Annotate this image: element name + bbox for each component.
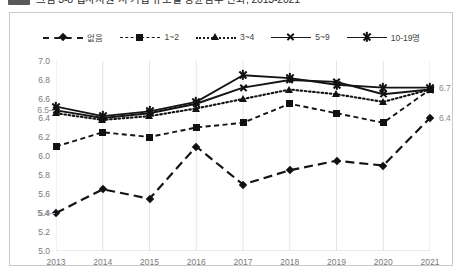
data-point-marker <box>146 134 153 141</box>
legend-label-3-4: 3~4 <box>240 32 254 42</box>
chart-frame: 없음 1~2 3~4 <box>9 12 453 266</box>
data-point-marker <box>53 143 60 150</box>
legend-item-5-9[interactable]: 5~9 <box>271 32 329 43</box>
x-axis-tick: 2020 <box>374 257 393 267</box>
legend-swatch-triangle-icon <box>196 32 236 43</box>
x-axis-tick: 2018 <box>280 257 299 267</box>
figure-caption-text: 그림 3-8 입사지원 시 기업 규모별 평균점수 변화, 2013-2021 <box>36 0 300 6</box>
y-axis-tick: 5.0 <box>38 246 50 256</box>
data-point-marker <box>285 86 293 93</box>
legend-label-10-19: 10-19명 <box>391 31 421 43</box>
y-axis-tick: 5.6 <box>38 189 50 199</box>
data-point-marker <box>378 83 388 93</box>
legend-item-3-4[interactable]: 3~4 <box>196 32 254 43</box>
data-point-marker <box>98 111 108 121</box>
x-axis-tick: 2017 <box>234 257 253 267</box>
x-axis-tick: 2019 <box>327 257 346 267</box>
x-axis-tick: 2013 <box>47 257 66 267</box>
legend-label-none: 없음 <box>87 31 103 43</box>
data-point-marker <box>145 106 155 116</box>
label-leader-line <box>49 213 55 214</box>
y-axis-tick: 5.2 <box>38 227 50 237</box>
x-axis-tick: 2016 <box>187 257 206 267</box>
legend-swatch-square-icon <box>120 32 160 43</box>
label-leader-line <box>49 110 55 111</box>
data-point-marker <box>99 129 106 136</box>
data-point-marker <box>191 97 201 107</box>
data-point-label: 6.5 <box>37 105 49 115</box>
data-point-label: 6.4 <box>439 113 451 123</box>
x-axis-tick: 2015 <box>140 257 159 267</box>
figure-caption-strip: 그림 3-8 입사지원 시 기업 규모별 평균점수 변화, 2013-2021 <box>0 0 463 11</box>
legend-swatch-x-icon <box>271 32 311 43</box>
y-axis-tick: 6.0 <box>38 151 50 161</box>
x-axis-tick: 2014 <box>93 257 112 267</box>
data-point-marker <box>286 100 293 107</box>
chart-legend: 없음 1~2 3~4 <box>10 31 454 43</box>
y-axis-tick: 5.8 <box>38 170 50 180</box>
data-point-marker <box>333 110 340 117</box>
y-axis-tick: 6.8 <box>38 75 50 85</box>
data-point-marker <box>239 83 248 92</box>
figure-number-chip <box>8 0 30 5</box>
legend-item-none[interactable]: 없음 <box>43 31 103 43</box>
data-point-marker <box>332 90 340 97</box>
legend-item-1-2[interactable]: 1~2 <box>120 32 178 43</box>
data-point-marker <box>239 95 247 102</box>
data-point-marker <box>379 98 387 105</box>
data-point-label: 5.4 <box>37 208 49 218</box>
x-axis-tick: 2021 <box>421 257 440 267</box>
legend-item-10-19[interactable]: 10-19명 <box>347 31 421 43</box>
y-axis-tick: 6.2 <box>38 132 50 142</box>
data-point-marker <box>380 119 387 126</box>
data-point-marker <box>332 80 342 90</box>
data-point-marker <box>285 73 295 83</box>
plot-area: 7.06.86.66.46.26.05.85.65.45.25.02013201… <box>56 61 430 251</box>
data-point-marker <box>193 124 200 131</box>
legend-swatch-diamond-icon <box>43 32 83 43</box>
data-point-label: 6.7 <box>439 83 451 93</box>
chart-screenshot: 그림 3-8 입사지원 시 기업 규모별 평균점수 변화, 2013-2021 … <box>0 0 463 276</box>
y-axis-tick: 7.0 <box>38 56 50 66</box>
y-axis-tick: 6.6 <box>38 94 50 104</box>
legend-label-5-9: 5~9 <box>315 32 329 42</box>
data-point-marker <box>240 119 247 126</box>
data-point-marker <box>238 70 248 80</box>
legend-label-1-2: 1~2 <box>164 32 178 42</box>
legend-swatch-star-icon <box>347 32 387 43</box>
data-point-marker <box>425 83 435 93</box>
